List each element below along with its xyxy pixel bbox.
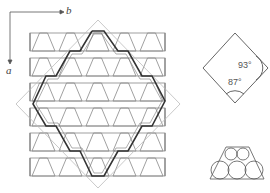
packing-detail (210, 147, 264, 179)
axis-b-label: b (66, 4, 72, 16)
lattice-diagram (0, 0, 270, 193)
trapezoid-grid (30, 33, 165, 176)
angle-93-label: 93° (238, 60, 252, 70)
unit-cell-rhombus (16, 20, 180, 188)
angle-87-label: 87° (228, 77, 242, 87)
axis-a-label: a (6, 64, 12, 76)
axes (8, 10, 64, 64)
rhombus-detail (203, 33, 268, 103)
hexagonal-outline (33, 31, 165, 176)
